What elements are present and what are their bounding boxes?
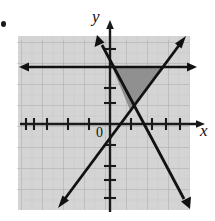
bullet-marker bbox=[1, 21, 6, 27]
coordinate-plane-svg bbox=[0, 0, 215, 221]
origin-label: 0 bbox=[96, 126, 103, 140]
x-axis-label: x bbox=[200, 122, 208, 139]
y-axis-arrow bbox=[106, 20, 114, 29]
graph-figure: y x 0 bbox=[0, 0, 215, 221]
horizontal-line-right-arrow bbox=[187, 63, 197, 72]
y-axis-label: y bbox=[92, 8, 100, 25]
